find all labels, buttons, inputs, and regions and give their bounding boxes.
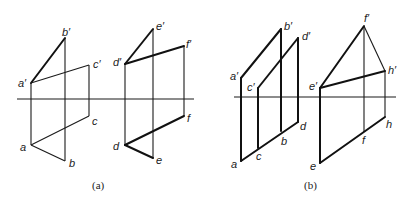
label-h: h bbox=[386, 118, 392, 130]
edge-c-d-front bbox=[258, 38, 298, 88]
label-d: d bbox=[300, 120, 307, 132]
label-d-prime: d′ bbox=[113, 56, 122, 68]
label-h-prime: h′ bbox=[388, 64, 397, 76]
edge-a-b-top bbox=[31, 145, 65, 161]
panel-b: a′ b′ c′ d′ a b c d e′ f′ h′ e f h (b) bbox=[230, 12, 397, 192]
label-a: a bbox=[231, 158, 237, 170]
edge-d-e-top bbox=[125, 145, 153, 158]
label-f: f bbox=[187, 112, 191, 124]
edge-d-f-front bbox=[125, 46, 184, 64]
edge-a-d-top bbox=[241, 122, 298, 161]
label-a-prime: a′ bbox=[230, 70, 239, 82]
edge-a-b-front bbox=[31, 38, 65, 83]
label-e-prime: e′ bbox=[309, 80, 318, 92]
edge-a-c-front bbox=[31, 65, 89, 83]
label-c: c bbox=[92, 115, 98, 127]
projection-diagram: a′ b′ c′ a b c d′ e′ f′ d e f (a) a′ b′ … bbox=[0, 0, 411, 204]
edge-d-f-top bbox=[125, 116, 184, 145]
label-d-prime: d′ bbox=[302, 30, 311, 42]
label-f-prime: f′ bbox=[364, 12, 370, 24]
label-b: b bbox=[69, 157, 75, 169]
label-b-prime: b′ bbox=[284, 20, 293, 32]
label-e: e bbox=[156, 154, 162, 166]
label-b-prime: b′ bbox=[62, 26, 71, 38]
label-f: f bbox=[362, 134, 366, 146]
label-c-prime: c′ bbox=[93, 58, 102, 70]
label-c: c bbox=[256, 150, 262, 162]
label-a: a bbox=[20, 141, 26, 153]
edge-a-b-front bbox=[241, 29, 281, 78]
edge-e-h-top bbox=[320, 117, 385, 163]
label-f-prime: f′ bbox=[186, 38, 192, 50]
label-b: b bbox=[281, 135, 287, 147]
edge-a-c-top bbox=[31, 116, 89, 145]
label-e-prime: e′ bbox=[156, 20, 165, 32]
label-d: d bbox=[113, 140, 120, 152]
label-a-prime: a′ bbox=[18, 77, 27, 89]
caption-b: (b) bbox=[304, 179, 317, 192]
panel-a: a′ b′ c′ a b c d′ e′ f′ d e f (a) bbox=[17, 20, 194, 192]
label-e: e bbox=[310, 160, 316, 172]
edge-f-h-front bbox=[364, 26, 385, 71]
label-c-prime: c′ bbox=[247, 81, 256, 93]
caption-a: (a) bbox=[92, 179, 105, 192]
